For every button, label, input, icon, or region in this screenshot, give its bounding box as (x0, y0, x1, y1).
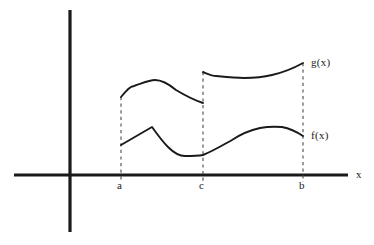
curve-g-of-x-right-branch (203, 63, 303, 78)
curve-f-of-x-group (121, 127, 303, 156)
tick-label-b: b (299, 180, 305, 191)
curve-g-of-x-left-branch (121, 80, 203, 103)
curve-label-g-of-x: g(x) (311, 57, 331, 68)
axes-group (14, 10, 348, 232)
figure-canvas: a c b g(x) f(x) x (0, 0, 374, 245)
diagram-svg (0, 0, 374, 245)
x-axis-label: x (356, 169, 362, 180)
tick-label-a: a (117, 180, 122, 191)
curve-f-of-x (121, 127, 303, 156)
curve-label-f-of-x: f(x) (311, 130, 329, 141)
curve-g-of-x-group (121, 63, 303, 103)
tick-label-c: c (199, 180, 204, 191)
